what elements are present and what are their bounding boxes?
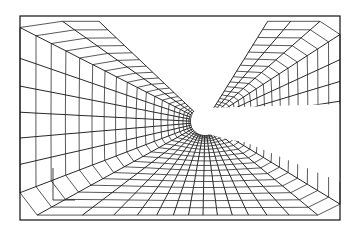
mesh-radial-line — [217, 35, 340, 115]
mesh-radial-line — [189, 135, 203, 215]
mesh-radial-line — [20, 58, 192, 117]
mesh-diagram — [0, 0, 358, 234]
mesh-radial-line — [20, 123, 191, 138]
mesh-radial-line — [20, 112, 191, 121]
mesh-radial-line — [20, 127, 192, 193]
mesh-canvas — [0, 0, 358, 234]
mesh-radial-line — [63, 21, 194, 114]
mesh-radial-line — [37, 129, 193, 215]
mesh-radial-line — [99, 21, 195, 112]
mesh-radial-line — [203, 135, 205, 215]
mesh-radial-line — [20, 86, 191, 119]
mesh-radial-line — [215, 21, 320, 113]
mesh-radial-line — [214, 21, 291, 111]
mesh-radial-line — [114, 132, 196, 215]
